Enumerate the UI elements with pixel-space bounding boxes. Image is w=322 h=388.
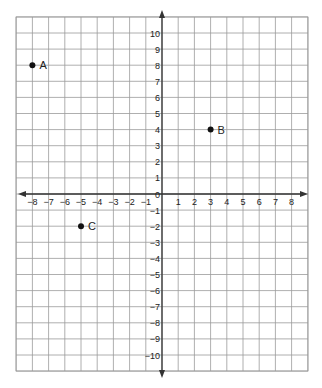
x-tick-label: −4 xyxy=(92,197,102,207)
x-tick-label: 5 xyxy=(240,197,245,207)
x-tick-label: −3 xyxy=(108,197,118,207)
x-tick-label: 7 xyxy=(273,197,278,207)
point-c xyxy=(78,223,84,229)
y-axis-up-arrow xyxy=(159,10,165,18)
x-tick-label: 1 xyxy=(176,197,181,207)
y-tick-label: −8 xyxy=(150,318,160,328)
y-tick-label: 2 xyxy=(155,157,160,167)
x-axis-left-arrow xyxy=(18,191,26,197)
y-tick-label: −5 xyxy=(150,270,160,280)
y-tick-label: 8 xyxy=(155,61,160,71)
y-tick-label: 10 xyxy=(150,29,160,39)
x-axis-right-arrow xyxy=(300,191,308,197)
x-tick-label: −6 xyxy=(60,197,70,207)
point-label-a: A xyxy=(39,59,47,71)
y-tick-label: 3 xyxy=(155,141,160,151)
y-tick-label: −3 xyxy=(150,238,160,248)
y-tick-label: 1 xyxy=(155,173,160,183)
x-tick-labels: −8−7−6−5−4−3−2−112345678 xyxy=(27,197,294,207)
y-tick-label: 6 xyxy=(155,93,160,103)
x-tick-label: −2 xyxy=(124,197,134,207)
y-tick-label: −1 xyxy=(150,206,160,216)
x-tick-label: −5 xyxy=(76,197,86,207)
point-label-b: B xyxy=(218,124,225,136)
y-tick-label: 5 xyxy=(155,109,160,119)
y-tick-label: −10 xyxy=(145,351,160,361)
y-tick-label: −9 xyxy=(150,334,160,344)
x-tick-label: 2 xyxy=(192,197,197,207)
x-tick-label: 4 xyxy=(224,197,229,207)
y-axis-down-arrow xyxy=(159,370,165,378)
y-tick-label: −7 xyxy=(150,302,160,312)
x-tick-label: 3 xyxy=(208,197,213,207)
y-tick-label: 4 xyxy=(155,125,160,135)
point-a xyxy=(29,62,35,68)
point-label-c: C xyxy=(88,220,96,232)
point-b xyxy=(208,127,214,133)
y-tick-label: −4 xyxy=(150,254,160,264)
x-tick-label: −7 xyxy=(43,197,53,207)
x-tick-label: −8 xyxy=(27,197,37,207)
y-tick-label: 9 xyxy=(155,45,160,55)
x-tick-label: 8 xyxy=(289,197,294,207)
y-tick-label: −6 xyxy=(150,286,160,296)
y-tick-label: −2 xyxy=(150,222,160,232)
y-tick-label: 7 xyxy=(155,77,160,87)
coordinate-plane: −8−7−6−5−4−3−2−112345678 109876543210−1−… xyxy=(0,0,322,388)
y-tick-label: 0 xyxy=(155,190,160,200)
x-tick-label: 6 xyxy=(257,197,262,207)
